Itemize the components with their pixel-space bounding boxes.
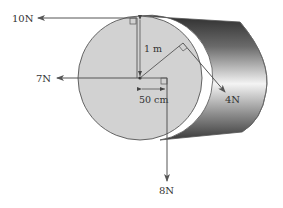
force-4n-label: 4N (225, 94, 240, 105)
offset-label: 50 cm (139, 94, 168, 105)
force-10n-label: 10N (12, 13, 34, 24)
force-8n-label: 8N (159, 185, 174, 196)
radius-label: 1 m (144, 43, 162, 54)
cylinder-force-diagram: 10N 1 m 7N 4N 50 cm 8N (0, 0, 283, 208)
force-7n-label: 7N (36, 73, 51, 84)
